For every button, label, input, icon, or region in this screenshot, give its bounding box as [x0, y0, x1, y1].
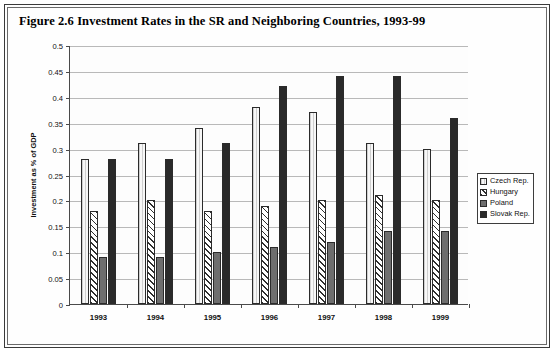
- x-axis-tick-mark: [298, 304, 299, 308]
- bar-slovak-rep-1994[interactable]: [165, 159, 173, 304]
- x-axis-tick-mark: [184, 304, 185, 308]
- y-axis-tick-label: 0.1: [52, 249, 63, 258]
- y-axis-tick-label: 0.5: [52, 42, 63, 51]
- chart-area: Investment as % of GDP 00.050.10.150.20.…: [5, 5, 551, 349]
- legend-swatch-icon: [480, 211, 487, 218]
- bar-czech-rep-1995[interactable]: [195, 128, 203, 304]
- legend-swatch-icon: [480, 200, 487, 207]
- x-axis-tick-label-1998: 1998: [375, 313, 392, 322]
- bar-group: [127, 46, 184, 304]
- x-axis-tick-mark: [469, 304, 470, 308]
- bar-poland-1998[interactable]: [384, 231, 392, 304]
- bars-layer: [70, 46, 468, 304]
- bar-group: [412, 46, 469, 304]
- bar-hungary-1993[interactable]: [90, 211, 98, 304]
- y-axis-tick-label: 0.2: [52, 197, 63, 206]
- bar-hungary-1996[interactable]: [261, 206, 269, 304]
- y-axis-tick-label: 0.3: [52, 145, 63, 154]
- legend-label: Czech Rep.: [490, 177, 529, 184]
- x-axis-tick-mark: [127, 304, 128, 308]
- y-axis-tick-label: 0.4: [52, 93, 63, 102]
- bar-hungary-1999[interactable]: [432, 200, 440, 304]
- y-axis-tick-label: 0.35: [48, 119, 63, 128]
- legend-label: Hungary: [490, 188, 518, 195]
- x-axis-tick-mark: [355, 304, 356, 308]
- bar-slovak-rep-1995[interactable]: [222, 143, 230, 304]
- legend-swatch-icon: [480, 189, 487, 196]
- bar-czech-rep-1998[interactable]: [366, 143, 374, 304]
- x-axis-tick-label-1999: 1999: [432, 313, 449, 322]
- bar-hungary-1995[interactable]: [204, 211, 212, 304]
- bar-czech-rep-1997[interactable]: [309, 112, 317, 304]
- bar-group: [355, 46, 412, 304]
- bar-czech-rep-1993[interactable]: [81, 159, 89, 304]
- x-axis-tick-label-1994: 1994: [147, 313, 164, 322]
- legend-swatch-icon: [480, 178, 487, 185]
- bar-slovak-rep-1996[interactable]: [279, 86, 287, 304]
- y-axis-tick-label: 0.45: [48, 67, 63, 76]
- legend-item-czech-rep[interactable]: Czech Rep.: [480, 176, 530, 186]
- bar-slovak-rep-1993[interactable]: [108, 159, 116, 304]
- bar-hungary-1997[interactable]: [318, 200, 326, 304]
- bar-slovak-rep-1997[interactable]: [336, 76, 344, 304]
- y-axis-tick-label: 0.15: [48, 223, 63, 232]
- y-axis-tick-label: 0.25: [48, 171, 63, 180]
- x-axis-tick-label-1997: 1997: [318, 313, 335, 322]
- x-axis-tick-mark: [412, 304, 413, 308]
- legend-item-slovak-rep[interactable]: Slovak Rep.: [480, 209, 530, 219]
- legend-item-poland[interactable]: Poland: [480, 198, 530, 208]
- bar-poland-1993[interactable]: [99, 257, 107, 304]
- legend-item-hungary[interactable]: Hungary: [480, 187, 530, 197]
- bar-hungary-1994[interactable]: [147, 200, 155, 304]
- bar-poland-1994[interactable]: [156, 257, 164, 304]
- legend-label: Slovak Rep.: [490, 210, 530, 217]
- bar-czech-rep-1996[interactable]: [252, 107, 260, 304]
- bar-czech-rep-1994[interactable]: [138, 143, 146, 304]
- y-axis-tick-label: 0: [59, 301, 63, 310]
- x-axis-tick-label-1995: 1995: [204, 313, 221, 322]
- y-axis-tick-label: 0.05: [48, 275, 63, 284]
- plot-area: 00.050.10.150.20.250.30.350.40.450.5 199…: [69, 46, 468, 305]
- chart-legend: Czech Rep.HungaryPolandSlovak Rep.: [477, 173, 534, 224]
- y-axis-tick-mark: [66, 305, 70, 306]
- bar-czech-rep-1999[interactable]: [423, 149, 431, 304]
- bar-slovak-rep-1999[interactable]: [450, 118, 458, 304]
- x-axis-tick-mark: [241, 304, 242, 308]
- bar-poland-1995[interactable]: [213, 252, 221, 304]
- bar-group: [70, 46, 127, 304]
- bar-group: [298, 46, 355, 304]
- legend-label: Poland: [490, 199, 513, 206]
- y-axis-title: Investment as % of GDP: [29, 132, 38, 217]
- x-axis-tick-label-1993: 1993: [90, 313, 107, 322]
- bar-poland-1996[interactable]: [270, 247, 278, 304]
- bar-slovak-rep-1998[interactable]: [393, 76, 401, 304]
- bar-poland-1999[interactable]: [441, 231, 449, 304]
- figure-frame: Figure 2.6 Investment Rates in the SR an…: [4, 4, 550, 348]
- bar-hungary-1998[interactable]: [375, 195, 383, 304]
- x-axis-tick-label-1996: 1996: [261, 313, 278, 322]
- bar-group: [241, 46, 298, 304]
- bar-group: [184, 46, 241, 304]
- bar-poland-1997[interactable]: [327, 242, 335, 304]
